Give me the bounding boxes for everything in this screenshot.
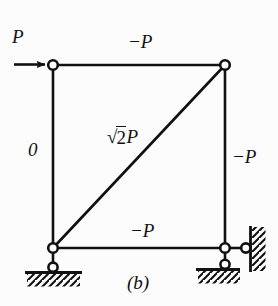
sqrt-icon: √2 (107, 127, 126, 146)
node-top-left (48, 60, 58, 70)
radicand-value: 2 (116, 126, 127, 148)
applied-load-label: P (12, 27, 24, 46)
member-label-left-column: 0 (28, 140, 38, 159)
support-right-wall-roller-icon (241, 243, 250, 252)
support-right-ground-roller-icon (220, 260, 229, 269)
member-label-bottom-chord: −P (130, 221, 154, 240)
diagonal-label-suffix: P (126, 126, 138, 147)
support-right-ground-hatch (198, 271, 240, 284)
member-label-right-column: −P (232, 147, 256, 166)
support-right-wall-hatch (252, 227, 266, 271)
node-top-right (220, 60, 230, 70)
support-left-roller-icon (48, 263, 57, 272)
support-right (196, 226, 266, 284)
support-left-ground-hatch (27, 274, 80, 287)
node-bottom-right (220, 243, 230, 253)
member-label-diagonal: √2P (107, 127, 138, 146)
node-bottom-left (48, 243, 58, 253)
truss-diagram-figure: P −P 0 −P −P √2P (b) (0, 0, 278, 306)
figure-caption: (b) (127, 273, 149, 292)
member-label-top-chord: −P (128, 32, 152, 51)
